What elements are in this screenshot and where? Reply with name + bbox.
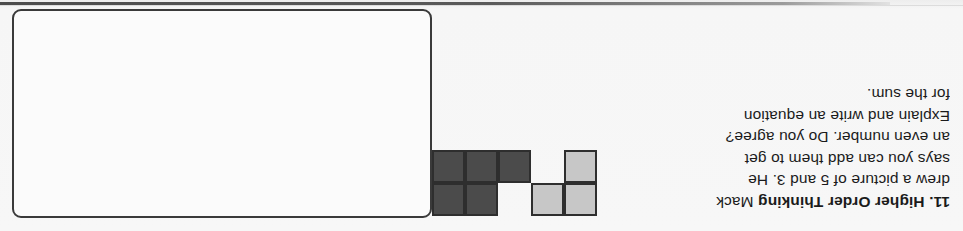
- worksheet-page: 11. Higher Order Thinking Mack drew a pi…: [0, 0, 963, 231]
- dark-cube: [465, 150, 498, 183]
- problem-line-2: drew a picture of 5 and 3. He: [610, 170, 950, 192]
- problem-label: Higher Order Thinking: [758, 194, 925, 211]
- answer-work-area[interactable]: [12, 9, 432, 218]
- dark-cube: [498, 150, 531, 183]
- light-cube: [564, 183, 597, 216]
- problem-line-5: Explain and write an equation: [610, 106, 950, 128]
- cube-train-diagram: [433, 150, 597, 216]
- problem-number: 11.: [929, 194, 950, 211]
- problem-line-3: says you can add them to get: [610, 149, 950, 171]
- light-cube: [564, 150, 597, 183]
- problem-line-1: 11. Higher Order Thinking Mack: [610, 192, 950, 214]
- problem-line-4: an even number. Do you agree?: [610, 127, 950, 149]
- problem-text-block: 11. Higher Order Thinking Mack drew a pi…: [610, 84, 950, 213]
- dark-cube: [465, 183, 498, 216]
- problem-line-6: for the sum.: [610, 84, 950, 106]
- dark-cube: [432, 150, 465, 183]
- dark-cube: [432, 183, 465, 216]
- problem-line-1-text: Mack: [716, 194, 753, 211]
- rotated-worksheet-content: 11. Higher Order Thinking Mack drew a pi…: [0, 0, 963, 231]
- light-cube: [531, 183, 564, 216]
